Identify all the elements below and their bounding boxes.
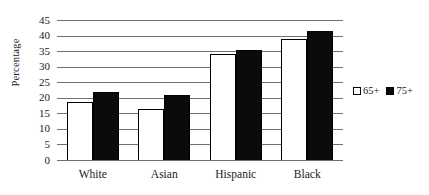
- legend-label: 65+: [363, 86, 379, 97]
- y-tick-label: 5: [26, 139, 50, 150]
- bar-white-75plus: [93, 92, 119, 160]
- bar-white-65plus: [67, 102, 93, 160]
- y-tick-label: 40: [26, 30, 50, 41]
- y-tick-label: 20: [26, 92, 50, 103]
- gridline: [57, 20, 343, 21]
- x-tick-label-asian: Asian: [129, 168, 201, 180]
- legend-label: 75+: [396, 86, 412, 97]
- y-axis-title: Percentage: [10, 18, 21, 108]
- y-tick-label: 10: [26, 123, 50, 134]
- gridline: [57, 36, 343, 37]
- bar-asian-65plus: [138, 109, 164, 160]
- bar-asian-75plus: [164, 95, 190, 160]
- bar-black-75plus: [307, 31, 333, 160]
- white-square-icon: [353, 87, 361, 95]
- bar-hispanic-65plus: [210, 54, 236, 160]
- bar-black-65plus: [281, 39, 307, 160]
- y-tick-label: 45: [26, 15, 50, 26]
- chart-legend: 65+75+: [353, 86, 413, 97]
- legend-entry-65plus: 65+: [353, 86, 379, 97]
- y-tick-label: 35: [26, 46, 50, 57]
- legend-entry-75plus: 75+: [386, 86, 412, 97]
- black-square-icon: [386, 87, 394, 95]
- x-tick-label-white: White: [57, 168, 129, 180]
- x-tick-label-hispanic: Hispanic: [200, 168, 272, 180]
- bar-chart: Percentage 051015202530354045 WhiteAsian…: [0, 0, 429, 195]
- plot-area: [57, 20, 343, 160]
- y-tick-label: 25: [26, 77, 50, 88]
- y-tick-label: 0: [26, 155, 50, 166]
- bar-hispanic-75plus: [236, 50, 262, 160]
- x-tick-label-black: Black: [272, 168, 344, 180]
- gridline: [57, 160, 343, 161]
- y-tick-label: 30: [26, 61, 50, 72]
- y-tick-label: 15: [26, 108, 50, 119]
